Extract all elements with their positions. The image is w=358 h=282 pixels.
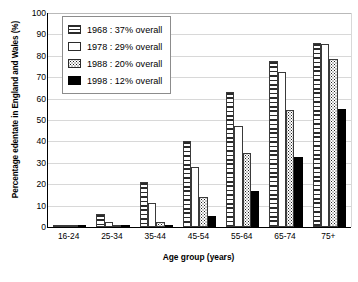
- y-tick-label: 100: [22, 8, 46, 18]
- bar: [313, 43, 321, 227]
- chart-legend: 1968 : 37% overall1978 : 29% overall1988…: [62, 16, 171, 94]
- bar: [338, 109, 346, 227]
- bar: [156, 222, 164, 227]
- x-tick-label: 16-24: [47, 231, 90, 247]
- bar: [294, 157, 302, 227]
- bar: [61, 225, 69, 227]
- y-tick-label: 90: [22, 29, 46, 39]
- legend-label: 1968 : 37% overall: [87, 25, 162, 35]
- legend-label: 1998 : 12% overall: [87, 76, 162, 86]
- bar: [234, 126, 242, 227]
- bar: [148, 203, 156, 227]
- bar-group: [221, 13, 264, 227]
- y-tick-label: 10: [22, 201, 46, 211]
- x-tick-label: 55-64: [220, 231, 263, 247]
- bar-group: [308, 13, 351, 227]
- bar: [53, 225, 61, 227]
- legend-swatch-icon: [68, 25, 81, 34]
- bar: [208, 216, 216, 227]
- bar: [96, 214, 104, 227]
- bar: [251, 191, 259, 227]
- bar: [121, 225, 129, 227]
- bar: [165, 225, 173, 227]
- bar: [321, 44, 329, 227]
- y-tick-label: 80: [22, 51, 46, 61]
- y-tick-label: 30: [22, 158, 46, 168]
- y-tick-label: 60: [22, 94, 46, 104]
- x-tick-label: 25-34: [90, 231, 133, 247]
- bar: [199, 197, 207, 227]
- plot-frame-right-edge: [351, 13, 352, 227]
- legend-swatch-icon: [68, 76, 81, 85]
- x-tick-label: 45-54: [177, 231, 220, 247]
- legend-item: 1968 : 37% overall: [68, 21, 162, 38]
- x-axis-title: Age group (years): [47, 252, 350, 262]
- bar: [140, 182, 148, 227]
- bar: [278, 72, 286, 227]
- bar: [70, 225, 78, 227]
- bar: [105, 222, 113, 227]
- x-axis-tick-labels: 16-2425-3435-4445-5455-6465-7475+: [47, 231, 350, 247]
- bar: [226, 92, 234, 227]
- legend-item: 1978 : 29% overall: [68, 38, 162, 55]
- y-axis-tick-labels: 1009080706050403020100: [22, 0, 46, 282]
- bar: [191, 167, 199, 227]
- bar: [269, 61, 277, 227]
- legend-swatch-icon: [68, 42, 81, 51]
- legend-swatch-icon: [68, 59, 81, 68]
- bar: [286, 110, 294, 227]
- legend-item: 1988 : 20% overall: [68, 55, 162, 72]
- y-tick-label: 50: [22, 115, 46, 125]
- legend-label: 1978 : 29% overall: [87, 42, 162, 52]
- bar-group: [178, 13, 221, 227]
- y-axis-title: Percentage edentate in England and Wales…: [11, 0, 20, 220]
- x-tick-label: 65-74: [263, 231, 306, 247]
- bar: [243, 153, 251, 227]
- legend-label: 1988 : 20% overall: [87, 59, 162, 69]
- bar-chart: Percentage edentate in England and Wales…: [0, 0, 358, 282]
- bar: [113, 225, 121, 227]
- x-tick-label: 35-44: [134, 231, 177, 247]
- bar: [329, 59, 337, 227]
- y-tick-label: 40: [22, 136, 46, 146]
- y-tick-label: 70: [22, 72, 46, 82]
- bar: [78, 225, 86, 227]
- x-tick-label: 75+: [307, 231, 350, 247]
- bar: [183, 141, 191, 227]
- bar-group: [264, 13, 307, 227]
- y-tick-label: 20: [22, 179, 46, 189]
- y-tick-label: 0: [22, 222, 46, 232]
- legend-item: 1998 : 12% overall: [68, 72, 162, 89]
